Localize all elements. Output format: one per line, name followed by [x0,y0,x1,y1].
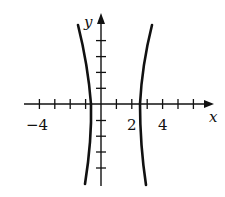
x-tick-label-neg4: −4 [26,116,48,134]
right-branch-curve [140,25,152,185]
x-tick-label-2: 2 [127,116,137,134]
x-axis-arrow-icon [204,100,214,108]
hyperbola-graph: −4 2 4 x y [0,0,225,197]
y-axis-label: y [83,13,93,31]
x-axis-label: x [209,108,218,126]
x-tick-label-4: 4 [158,116,168,134]
y-axis-arrow-icon [97,13,105,24]
